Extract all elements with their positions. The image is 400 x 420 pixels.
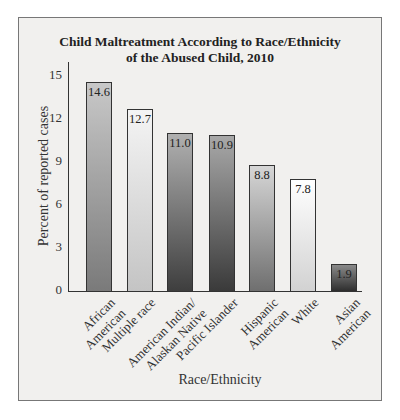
chart-title-line-2: of the Abused Child, 2010 bbox=[18, 50, 382, 66]
bar: 7.8 bbox=[290, 179, 316, 292]
bar: 8.8 bbox=[249, 165, 275, 292]
bar-value-label: 11.0 bbox=[168, 136, 192, 151]
bar-value-label: 1.9 bbox=[332, 267, 356, 282]
bar-value-label: 14.6 bbox=[87, 85, 111, 100]
y-tick-label: 12 bbox=[38, 111, 62, 125]
bar: 1.9 bbox=[331, 264, 357, 292]
y-tick-label: 6 bbox=[38, 197, 62, 211]
chart-title-line-1: Child Maltreatment According to Race/Eth… bbox=[18, 34, 382, 50]
bar-value-label: 8.8 bbox=[250, 168, 274, 183]
bar-value-label: 7.8 bbox=[291, 182, 315, 197]
bar: 10.9 bbox=[209, 135, 235, 292]
bar: 11.0 bbox=[167, 133, 193, 292]
bar: 14.6 bbox=[86, 82, 112, 292]
bar-value-label: 12.7 bbox=[128, 112, 152, 127]
y-tick-label: 0 bbox=[38, 283, 62, 297]
chart-title: Child Maltreatment According to Race/Eth… bbox=[18, 34, 382, 66]
y-tick-label: 15 bbox=[38, 68, 62, 82]
bar-value-label: 10.9 bbox=[210, 138, 234, 153]
bar: 12.7 bbox=[127, 109, 153, 292]
x-axis-label: Race/Ethnicity bbox=[18, 372, 382, 388]
y-axis bbox=[68, 62, 69, 291]
y-tick-label: 9 bbox=[38, 154, 62, 168]
y-axis-label: Percent of reported cases bbox=[36, 106, 52, 246]
y-tick-label: 3 bbox=[38, 240, 62, 254]
